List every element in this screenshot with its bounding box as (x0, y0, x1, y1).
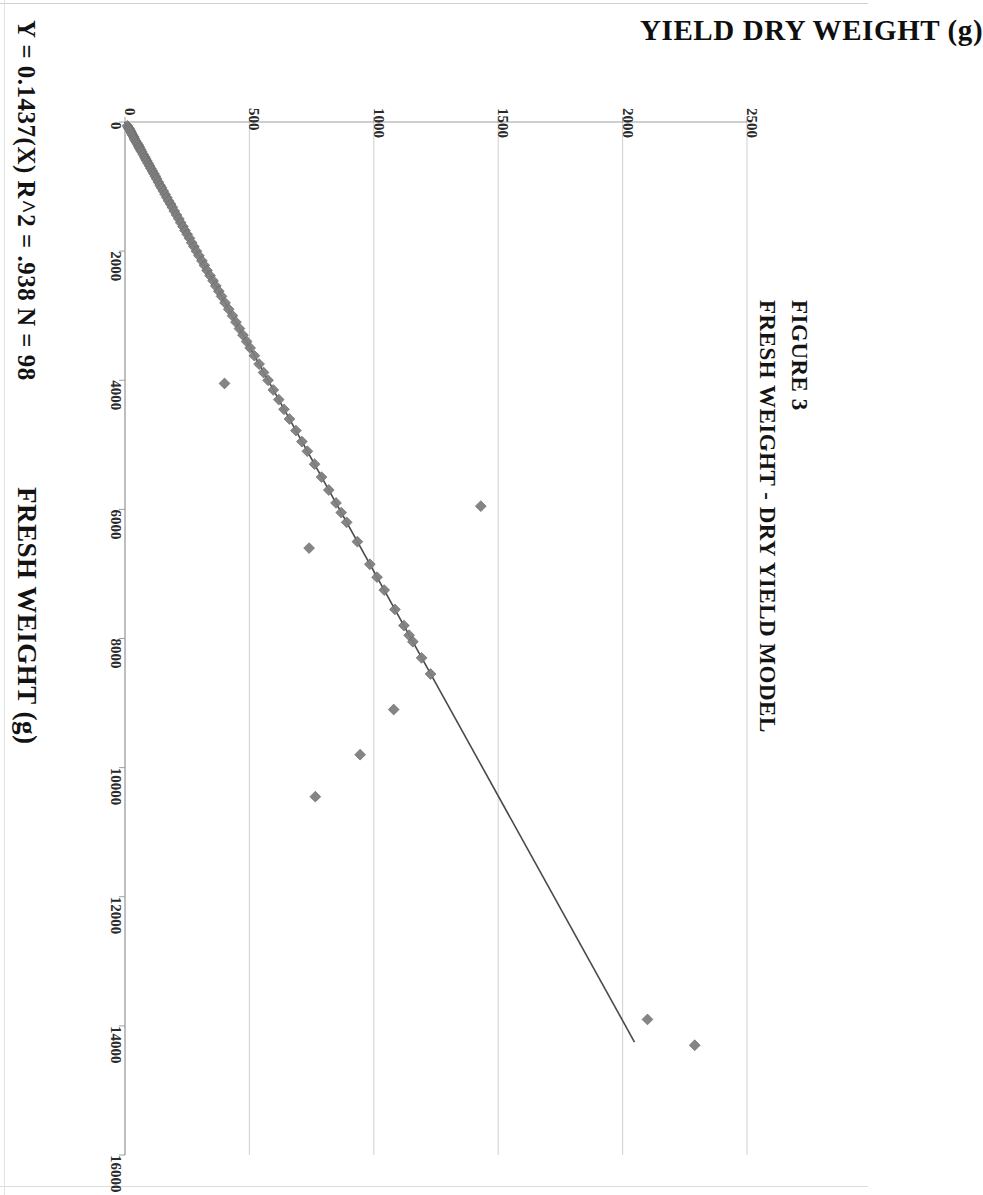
data-point (352, 536, 363, 547)
data-point (268, 385, 279, 396)
data-point (390, 604, 401, 615)
tick-label-yield-2000: 2000 (620, 108, 636, 138)
tick-label-fresh-14000: 14000 (108, 1026, 124, 1064)
data-point (309, 459, 320, 470)
data-point (279, 404, 290, 415)
tick-label-yield-2500: 2500 (744, 108, 760, 138)
data-point (316, 472, 327, 483)
tick-label-yield-500: 500 (246, 108, 262, 131)
data-point (642, 1014, 653, 1025)
tick-label-yield-1500: 1500 (495, 108, 511, 138)
tick-marks (119, 117, 747, 1155)
data-point (416, 652, 427, 663)
tick-label-fresh-16000: 16000 (108, 1155, 124, 1193)
data-point (475, 501, 486, 512)
tick-label-yield-0: 0 (122, 108, 138, 116)
tick-label-fresh-2000: 2000 (108, 251, 124, 281)
tick-label-fresh-0: 0 (108, 122, 124, 130)
data-point (399, 620, 410, 631)
data-point (379, 585, 390, 596)
data-point (291, 425, 302, 436)
data-point (336, 507, 347, 518)
axis-lines (125, 122, 747, 1155)
data-point (355, 749, 366, 760)
data-point (372, 572, 383, 583)
data-point (425, 669, 436, 680)
tick-label-fresh-6000: 6000 (108, 509, 124, 539)
tick-label-fresh-8000: 8000 (108, 639, 124, 669)
tick-label-fresh-12000: 12000 (108, 897, 124, 935)
tick-label-fresh-10000: 10000 (108, 768, 124, 806)
data-point (284, 414, 295, 425)
data-point (304, 543, 315, 554)
data-point (323, 485, 334, 496)
data-point (302, 446, 313, 457)
data-point (341, 517, 352, 528)
data-point (331, 498, 342, 509)
tick-label-fresh-4000: 4000 (108, 380, 124, 410)
tick-label-yield-1000: 1000 (371, 108, 387, 138)
data-points (122, 120, 700, 1050)
data-point (689, 1040, 700, 1051)
data-point (388, 704, 399, 715)
grid-lines (125, 122, 747, 1155)
data-point (273, 394, 284, 405)
data-point (310, 791, 321, 802)
data-point (296, 436, 307, 447)
data-point (219, 378, 230, 389)
